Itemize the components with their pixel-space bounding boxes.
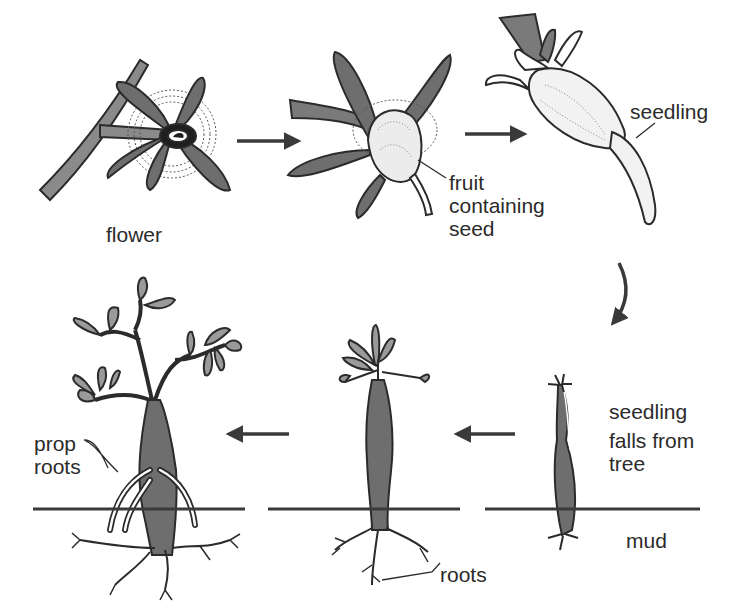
label-seedling: seedling — [630, 100, 708, 123]
mangrove-life-cycle-diagram — [0, 0, 742, 615]
cycle-arrows — [229, 134, 626, 434]
fallen-seedling-illustration — [548, 374, 578, 550]
mature-tree-illustration — [72, 277, 241, 600]
label-seedling-falls-from-tree: seedling falls from tree — [609, 400, 694, 475]
label-flower: flower — [106, 223, 162, 246]
arrow-curved-down-icon — [613, 263, 626, 323]
fruit-illustration — [288, 52, 451, 218]
flower-illustration — [40, 60, 230, 200]
label-fruit-containing-seed: fruit containing seed — [449, 171, 545, 240]
young-tree-illustration — [332, 325, 440, 585]
label-prop-roots: prop roots — [34, 432, 81, 478]
label-mud: mud — [626, 529, 667, 552]
label-roots: roots — [440, 563, 487, 586]
